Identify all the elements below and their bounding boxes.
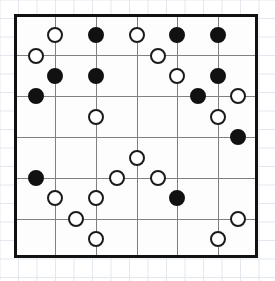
white-stone[interactable] [230,211,246,227]
black-stone[interactable] [28,88,44,104]
grid-line-horizontal-5 [14,219,258,220]
white-stone[interactable] [150,170,166,186]
white-stone[interactable] [28,48,44,64]
black-stone[interactable] [88,27,104,43]
white-stone[interactable] [210,109,226,125]
puzzle-screenshot [0,0,275,281]
grid-line-horizontal-4 [14,178,258,179]
white-stone[interactable] [129,150,145,166]
puzzle-board[interactable] [14,14,258,258]
black-stone[interactable] [169,190,185,206]
board-border [14,14,258,258]
white-stone[interactable] [47,190,63,206]
grid-line-horizontal-3 [14,137,258,138]
black-stone[interactable] [230,129,246,145]
black-stone[interactable] [28,170,44,186]
white-stone[interactable] [47,27,63,43]
grid-line-vertical-2 [96,14,97,258]
grid-line-vertical-5 [218,14,219,258]
grid-line-vertical-1 [55,14,56,258]
white-stone[interactable] [129,27,145,43]
white-stone[interactable] [88,231,104,247]
white-stone[interactable] [88,190,104,206]
white-stone[interactable] [169,68,185,84]
black-stone[interactable] [210,27,226,43]
white-stone[interactable] [150,48,166,64]
grid-line-horizontal-2 [14,96,258,97]
black-stone[interactable] [47,68,63,84]
grid-line-vertical-4 [177,14,178,258]
white-stone[interactable] [210,231,226,247]
black-stone[interactable] [169,27,185,43]
black-stone[interactable] [210,68,226,84]
white-stone[interactable] [230,88,246,104]
black-stone[interactable] [88,68,104,84]
grid-line-vertical-3 [137,14,138,258]
white-stone[interactable] [68,211,84,227]
grid-line-horizontal-1 [14,55,258,56]
black-stone[interactable] [190,88,206,104]
white-stone[interactable] [88,109,104,125]
white-stone[interactable] [109,170,125,186]
